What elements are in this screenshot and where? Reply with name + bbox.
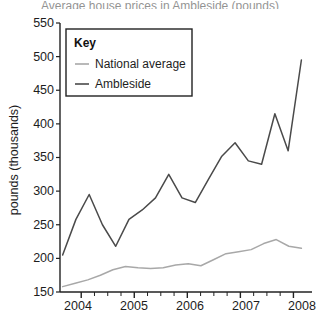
legend-box: Key National average Ambleside bbox=[66, 29, 192, 96]
y-tick-300: 300 bbox=[33, 184, 54, 198]
x-tick-2004: 2004 bbox=[64, 299, 92, 313]
y-tick-550: 550 bbox=[33, 16, 54, 30]
y-tick-150: 150 bbox=[33, 285, 54, 299]
x-tick-2007: 2007 bbox=[232, 299, 260, 313]
x-axis-ticks bbox=[81, 292, 293, 298]
chart-svg: 550 500 450 400 350 300 250 200 150 poun… bbox=[0, 0, 320, 321]
y-axis-tick-labels: 550 500 450 400 350 300 250 200 150 bbox=[33, 16, 54, 299]
y-tick-350: 350 bbox=[33, 150, 54, 164]
legend-label-ambleside: Ambleside bbox=[95, 77, 151, 91]
y-tick-200: 200 bbox=[33, 251, 54, 265]
y-tick-500: 500 bbox=[33, 50, 54, 64]
y-tick-450: 450 bbox=[33, 83, 54, 97]
series-line-national-average bbox=[63, 240, 302, 287]
x-axis-tick-labels: 2004 2005 2006 2007 2008 bbox=[64, 299, 316, 313]
y-tick-400: 400 bbox=[33, 117, 54, 131]
x-tick-2006: 2006 bbox=[176, 299, 204, 313]
x-tick-2005: 2005 bbox=[120, 299, 148, 313]
x-tick-2008: 2008 bbox=[288, 299, 316, 313]
y-tick-250: 250 bbox=[33, 218, 54, 232]
legend-label-national-average: National average bbox=[95, 57, 186, 71]
legend-title: Key bbox=[74, 36, 96, 50]
y-axis-title: pounds (thousands) bbox=[7, 105, 21, 216]
line-chart: 550 500 450 400 350 300 250 200 150 poun… bbox=[0, 0, 320, 321]
